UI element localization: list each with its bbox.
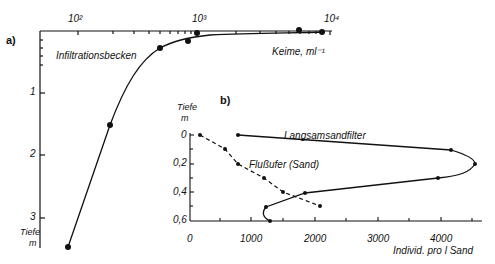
plot-a-title: Infiltrationsbecken <box>56 50 137 61</box>
b-xtick-4: 3000 <box>367 233 389 244</box>
a-xtick-3: 10⁴ <box>324 13 339 24</box>
flussufer-points <box>198 133 322 208</box>
a-ylabel-2: m <box>29 238 37 248</box>
a-ytick-1: 1 <box>30 86 36 97</box>
b-ylabel-2: m <box>181 113 189 123</box>
a-xtick-2: 10³ <box>192 13 206 24</box>
chart-canvas <box>0 0 495 264</box>
plot-a-xlabel: Keime, ml⁻¹ <box>272 46 325 57</box>
b-xtick-3: 2000 <box>304 233 326 244</box>
panel-a-label: a) <box>6 34 16 46</box>
panel-b-label: b) <box>220 94 230 106</box>
series-label-langsamsandfilter: Langsamsandfilter <box>284 130 366 141</box>
b-xtick-2: 1000 <box>240 233 262 244</box>
b-ytick-4: 0,6 <box>173 214 187 225</box>
b-xtick-1: 0 <box>187 233 193 244</box>
a-ylabel-1: Tiefe <box>20 227 40 237</box>
b-ylabel-1: Tiefe <box>177 102 197 112</box>
series-flussufer <box>200 135 320 206</box>
a-ytick-3: 3 <box>30 211 36 222</box>
a-ytick-2: 2 <box>30 148 36 159</box>
series-label-flussufer: Flußufer (Sand) <box>249 159 319 170</box>
plot-b-xlabel: Individ. pro l Sand <box>393 245 473 256</box>
b-ytick-2: 0,2 <box>173 157 187 168</box>
b-ytick-1: 0 <box>181 129 187 140</box>
b-ytick-3: 0,4 <box>173 186 187 197</box>
b-xtick-5: 4000 <box>430 233 452 244</box>
a-xtick-1: 10² <box>68 13 82 24</box>
